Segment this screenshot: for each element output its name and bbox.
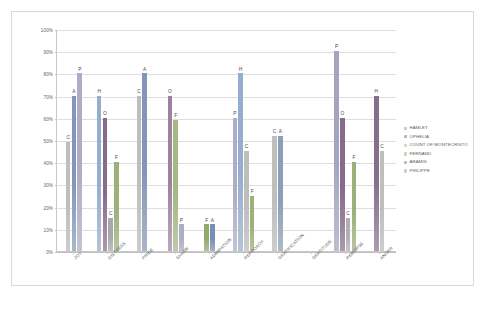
bar[interactable]: O bbox=[168, 96, 173, 251]
x-axis-labels: JOYDISTRESSPRIDESHAMEADMIRATIONREPROACHG… bbox=[56, 252, 396, 297]
x-axis-tick bbox=[175, 252, 176, 254]
bar-slot: P bbox=[334, 30, 339, 251]
bar[interactable]: H bbox=[374, 96, 379, 251]
legend-item-label: HAMLET bbox=[409, 126, 427, 130]
bar-value-label: F bbox=[352, 156, 355, 161]
legend-item[interactable]: HAMLET bbox=[404, 126, 484, 130]
bar-slot: C bbox=[108, 30, 113, 251]
chart-frame: 100%90%80%70%60%50%40%30%20%10%0%CAPHOCF… bbox=[11, 11, 474, 286]
bar-value-label: F bbox=[174, 114, 177, 119]
y-axis-label: 70% bbox=[44, 94, 54, 99]
x-axis-category: ADMIRATION bbox=[192, 252, 226, 297]
x-axis-tick bbox=[209, 252, 210, 254]
bar-group: POCF bbox=[328, 30, 362, 251]
bar-slot: F bbox=[250, 30, 255, 251]
x-axis-tick bbox=[73, 252, 74, 254]
x-axis-tick bbox=[345, 252, 346, 254]
legend-item-label: ARAMIS bbox=[409, 160, 426, 164]
bar-slot: P bbox=[77, 30, 82, 251]
bar-value-label: C bbox=[109, 212, 112, 217]
bar[interactable]: H bbox=[238, 73, 243, 251]
legend-item[interactable]: PHILIPPE bbox=[404, 169, 484, 173]
bar[interactable]: H bbox=[97, 96, 102, 251]
bar-slot: A bbox=[278, 30, 283, 251]
bar-slot: C bbox=[244, 30, 249, 251]
bar[interactable]: P bbox=[334, 51, 339, 251]
x-axis-tick bbox=[379, 252, 380, 254]
bar-value-label: A bbox=[143, 68, 146, 73]
legend-item[interactable]: FERNAND bbox=[404, 152, 484, 156]
bar[interactable]: A bbox=[210, 224, 215, 251]
bar-group: CA bbox=[260, 30, 294, 251]
x-axis-category: ANGER bbox=[362, 252, 396, 297]
bar[interactable]: A bbox=[72, 96, 77, 251]
x-axis-category: REMORSE bbox=[328, 252, 362, 297]
legend-item[interactable]: ARAMIS bbox=[404, 160, 484, 164]
bar-slot: A bbox=[72, 30, 77, 251]
bar[interactable]: C bbox=[272, 136, 277, 251]
bar[interactable]: P bbox=[77, 73, 82, 251]
legend-item-label: COUNT OF MONTECRISTO bbox=[409, 143, 467, 147]
bar-value-label: F bbox=[205, 219, 208, 224]
bar-slot: F bbox=[352, 30, 357, 251]
bar[interactable]: C bbox=[346, 218, 351, 251]
legend-swatch-icon bbox=[404, 152, 407, 155]
bar[interactable]: A bbox=[142, 73, 147, 251]
bar-value-label: P bbox=[233, 112, 236, 117]
x-axis-category: DISTRESS bbox=[90, 252, 124, 297]
chart-legend: HAMLETOPHELIACOUNT OF MONTECRISTOFERNAND… bbox=[404, 126, 484, 178]
bar-value-label: P bbox=[180, 219, 183, 224]
legend-swatch-icon bbox=[404, 161, 407, 164]
bar[interactable]: F bbox=[352, 162, 357, 251]
bar[interactable]: P bbox=[233, 118, 238, 251]
bar-slot: P bbox=[233, 30, 238, 251]
bar-slot: O bbox=[340, 30, 345, 251]
bar-value-label: A bbox=[72, 90, 75, 95]
y-axis-label: 80% bbox=[44, 72, 54, 77]
bar[interactable]: C bbox=[66, 142, 71, 251]
bar-group: PHCF bbox=[227, 30, 261, 251]
bar[interactable]: A bbox=[278, 136, 283, 251]
bar-slot: C bbox=[380, 30, 385, 251]
bar[interactable]: C bbox=[137, 96, 142, 251]
x-axis-category: JOY bbox=[56, 252, 90, 297]
bar-group: HOCF bbox=[91, 30, 125, 251]
bar-slot: C bbox=[272, 30, 277, 251]
bar-slot: P bbox=[179, 30, 184, 251]
x-axis-category: GRATIFICATION bbox=[260, 252, 294, 297]
bar-value-label: P bbox=[78, 68, 81, 73]
bar[interactable]: C bbox=[380, 151, 385, 251]
bar[interactable]: F bbox=[114, 162, 119, 251]
bar-value-label: C bbox=[137, 90, 140, 95]
x-axis-category: SHAME bbox=[158, 252, 192, 297]
bar-slot: F bbox=[114, 30, 119, 251]
bar-group: CA bbox=[125, 30, 159, 251]
bar[interactable]: O bbox=[103, 118, 108, 251]
bar[interactable]: F bbox=[173, 120, 178, 251]
bar[interactable]: F bbox=[204, 224, 209, 251]
bar[interactable]: F bbox=[250, 196, 255, 252]
bar-value-label: C bbox=[346, 212, 349, 217]
bar-group: FA bbox=[193, 30, 227, 251]
legend-item[interactable]: OPHELIA bbox=[404, 135, 484, 139]
x-axis-tick bbox=[141, 252, 142, 254]
x-axis-category: PRIDE bbox=[124, 252, 158, 297]
bar-value-label: O bbox=[340, 112, 344, 117]
legend-item-label: FERNAND bbox=[409, 152, 431, 156]
bar-groups: CAPHOCFCAOFPFAPHCFCAPOCFHC bbox=[57, 30, 396, 251]
x-axis-category-label: JOY bbox=[73, 251, 83, 261]
bar[interactable]: O bbox=[340, 118, 345, 251]
bar[interactable]: C bbox=[244, 151, 249, 251]
bar[interactable]: C bbox=[108, 218, 113, 251]
bar-value-label: C bbox=[273, 130, 276, 135]
legend-item[interactable]: COUNT OF MONTECRISTO bbox=[404, 143, 484, 147]
bar-value-label: F bbox=[115, 156, 118, 161]
y-axis-label: 100% bbox=[41, 28, 53, 33]
bar-slot: O bbox=[103, 30, 108, 251]
bar-value-label: H bbox=[97, 90, 100, 95]
bar-slot: H bbox=[374, 30, 379, 251]
bar-value-label: O bbox=[103, 112, 107, 117]
plot-area: 100%90%80%70%60%50%40%30%20%10%0%CAPHOCF… bbox=[56, 30, 396, 252]
bar-slot: H bbox=[238, 30, 243, 251]
x-axis-tick bbox=[277, 252, 278, 254]
